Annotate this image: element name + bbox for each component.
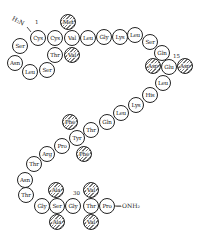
residue-asn: Asn xyxy=(17,172,33,188)
residue-thr: Thr xyxy=(26,156,42,172)
residue-cys: Cys xyxy=(30,30,46,46)
residue-label: Val xyxy=(67,52,76,58)
residue-pro: Pro xyxy=(54,138,70,154)
residue-label: Lys xyxy=(131,102,140,108)
residue-label: Glu xyxy=(164,64,173,70)
residue-label: Lys xyxy=(115,34,124,40)
residue-phe: Phe xyxy=(62,114,78,130)
residue-label: Asn xyxy=(10,60,20,66)
residue-label: Ser xyxy=(52,203,61,209)
residue-label: Thr xyxy=(29,161,38,167)
residue-label: Leu xyxy=(130,32,140,38)
residue-label: Arg xyxy=(42,151,52,157)
residue-met: Met xyxy=(60,14,76,30)
residue-leu: Leu xyxy=(80,30,96,46)
residue-label: Gly xyxy=(100,34,109,40)
residue-label: Leu xyxy=(25,69,35,75)
residue-thr: Thr xyxy=(18,187,34,203)
residue-label: Val xyxy=(68,35,76,41)
residue-label: Gln xyxy=(102,119,111,125)
residue-ala: Ala xyxy=(48,182,64,198)
residue-arg: Arg xyxy=(39,146,55,162)
residue-label: Asp xyxy=(148,63,159,69)
residue-leu: Leu xyxy=(22,64,38,80)
residue-label: Tyr xyxy=(73,135,82,141)
residue-val: Val xyxy=(83,214,99,230)
residue-leu: Leu xyxy=(113,105,129,121)
residue-cys: Cys xyxy=(47,30,63,46)
residue-leu: Leu xyxy=(155,75,171,91)
residue-label: His xyxy=(146,92,155,98)
residue-label: Phe xyxy=(78,151,89,157)
position-number: 30 xyxy=(73,190,80,196)
residue-label: Pro xyxy=(57,143,66,149)
peptide-sequence-diagram: H₂N —ONH₂ 11530 CysCysValMetValThrSerAsn… xyxy=(0,0,207,250)
position-number: 15 xyxy=(173,53,180,59)
residue-tyr: Tyr xyxy=(69,130,85,146)
residue-pro: Pro xyxy=(99,198,115,214)
residue-thr: Thr xyxy=(83,198,99,214)
residue-label: Ser xyxy=(145,39,154,45)
residue-glu: Glu xyxy=(161,59,177,75)
residue-label: Ala xyxy=(51,187,61,193)
residue-label: Pro xyxy=(102,203,111,209)
residue-label: Met xyxy=(62,19,74,25)
residue-label: Asp xyxy=(180,63,191,69)
residue-ser: Ser xyxy=(12,38,28,54)
residue-label: Leu xyxy=(158,80,168,86)
c-terminus-label: —ONH₂ xyxy=(116,202,140,209)
residue-label: Ser xyxy=(42,67,51,73)
residue-asn: Asn xyxy=(7,55,23,71)
residue-val: Val xyxy=(64,30,80,46)
residue-label: Ala xyxy=(52,219,62,225)
residue-label: Ser xyxy=(15,43,24,49)
residue-phe: Phe xyxy=(76,146,92,162)
residue-ala: Ala xyxy=(49,214,65,230)
residue-label: Phe xyxy=(64,119,75,125)
residue-label: Cys xyxy=(50,35,60,41)
residue-val: Val xyxy=(83,182,99,198)
residue-gly: Gly xyxy=(34,198,50,214)
residue-gln: Gln xyxy=(99,114,115,130)
residue-thr: Thr xyxy=(47,47,63,63)
residue-lys: Lys xyxy=(112,29,128,45)
residue-label: Val xyxy=(86,219,95,225)
residue-gly: Gly xyxy=(65,198,81,214)
residue-label: Thr xyxy=(21,192,30,198)
residue-asp: Asp xyxy=(177,58,193,74)
residue-gly: Gly xyxy=(96,29,112,45)
residue-label: Gly xyxy=(69,203,78,209)
residue-label: Leu xyxy=(116,110,126,116)
position-number: 1 xyxy=(35,19,39,25)
residue-thr: Thr xyxy=(83,122,99,138)
residue-leu: Leu xyxy=(127,27,143,43)
residue-val: Val xyxy=(64,47,80,63)
residue-his: His xyxy=(142,87,158,103)
residue-label: Val xyxy=(86,187,95,193)
residue-asp: Asp xyxy=(145,58,161,74)
residue-ser: Ser xyxy=(49,198,65,214)
residue-label: Gly xyxy=(38,203,47,209)
residue-label: Thr xyxy=(50,52,59,58)
residue-label: Gln xyxy=(157,50,166,56)
residue-lys: Lys xyxy=(128,97,144,113)
residue-label: Cys xyxy=(33,35,43,41)
residue-label: Leu xyxy=(83,35,93,41)
residue-label: Asn xyxy=(20,177,30,183)
residue-label: Thr xyxy=(86,127,95,133)
residue-label: Thr xyxy=(86,203,95,209)
residue-ser: Ser xyxy=(39,62,55,78)
